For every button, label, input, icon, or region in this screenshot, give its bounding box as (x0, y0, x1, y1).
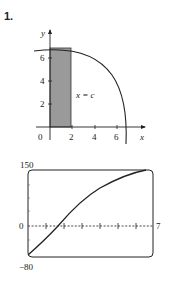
svg-text:7: 7 (156, 221, 161, 231)
calculator-graph-figure: 150 0 7 −80 (0, 0, 170, 283)
svg-text:0: 0 (19, 221, 24, 231)
graph-window-frame (28, 170, 153, 257)
svg-text:150: 150 (20, 160, 34, 170)
function-curve (28, 170, 146, 255)
svg-text:−80: −80 (19, 262, 34, 272)
